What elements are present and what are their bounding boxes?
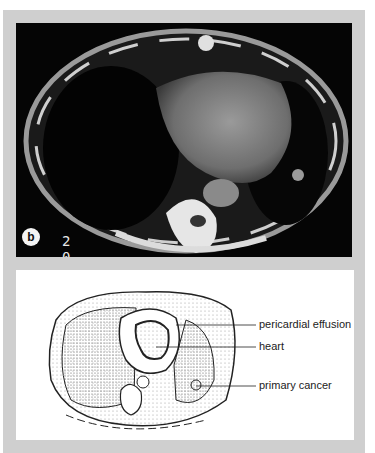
label-heart: heart	[259, 340, 284, 352]
diagram-panel: pericardial effusion heart primary cance…	[16, 270, 354, 440]
aorta	[203, 179, 239, 207]
ct-diagram	[16, 270, 354, 440]
panel-label: b	[22, 228, 40, 246]
tumor-nodule	[292, 169, 304, 181]
spinal-canal	[190, 215, 206, 227]
ct-scan-graphic	[16, 23, 352, 257]
scan-overlay-numbers: 2 0 1 2 0	[50, 233, 86, 257]
sternum	[198, 35, 214, 51]
diagram-aorta	[137, 376, 149, 388]
scan-number-2: 0	[50, 249, 86, 257]
label-primary-cancer: primary cancer	[259, 379, 332, 391]
ct-scan-image: 2 0 1 2 0 V	[16, 23, 352, 257]
scan-number-1: 2	[50, 233, 86, 249]
label-pericardial-effusion: pericardial effusion	[259, 318, 351, 330]
